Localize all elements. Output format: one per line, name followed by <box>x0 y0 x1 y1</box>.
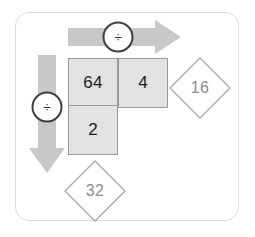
grid-cell-2[interactable]: 2 <box>68 105 118 155</box>
grid-cell-2-value: 2 <box>88 120 98 140</box>
division-operator-left: ÷ <box>34 101 60 114</box>
grid-cell-4-value: 4 <box>138 73 148 93</box>
diagram-canvas: 64 4 2 16 32 ÷ ÷ <box>0 0 255 237</box>
grid-cell-64-value: 64 <box>83 73 102 93</box>
diamond-16 <box>170 58 230 118</box>
grid-cell-64[interactable]: 64 <box>68 58 118 108</box>
diamond-32 <box>65 161 125 221</box>
division-operator-top: ÷ <box>105 31 131 44</box>
grid-cell-4[interactable]: 4 <box>118 58 168 108</box>
